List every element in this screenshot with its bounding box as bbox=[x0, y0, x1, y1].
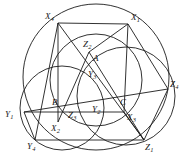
seg-Z1-Z4 bbox=[144, 89, 168, 140]
point-label-Y3: Y3 bbox=[88, 70, 96, 79]
point-label-base: X bbox=[51, 123, 57, 133]
point-label-subscript: 4 bbox=[175, 83, 178, 90]
point-label-Y1: Y1 bbox=[5, 110, 13, 119]
point-label-X2: X2 bbox=[51, 124, 60, 133]
seg-X4-X1 bbox=[58, 23, 128, 24]
point-label-subscript: 2 bbox=[97, 108, 100, 115]
point-label-C: C bbox=[120, 98, 126, 107]
point-label-base: X bbox=[127, 112, 133, 122]
point-label-subscript: 4 bbox=[32, 145, 35, 152]
point-label-subscript: 2 bbox=[57, 127, 60, 134]
point-label-subscript: 3 bbox=[93, 73, 96, 80]
point-label-subscript: 1 bbox=[150, 146, 153, 153]
seg-X1-Z2 bbox=[89, 24, 128, 52]
point-label-subscript: 1 bbox=[10, 113, 13, 120]
point-label-Z2: Z2 bbox=[83, 40, 91, 49]
point-label-base: A bbox=[93, 53, 99, 63]
seg-Y1-Y4 bbox=[24, 112, 35, 140]
point-label-B: B bbox=[52, 98, 58, 107]
point-label-Z4: Z4 bbox=[170, 80, 178, 89]
point-label-Y4: Y4 bbox=[27, 142, 35, 151]
point-label-Z3: Z3 bbox=[68, 111, 76, 120]
seg-X1-Z4 bbox=[128, 24, 168, 89]
point-label-base: X bbox=[45, 11, 51, 21]
segment-layer bbox=[24, 23, 168, 140]
point-label-base: B bbox=[52, 97, 58, 107]
point-label-Y2: Y2 bbox=[92, 105, 100, 114]
point-label-base: X bbox=[131, 12, 137, 22]
point-label-subscript: 2 bbox=[88, 43, 91, 50]
seg-Z2-Z1 bbox=[89, 52, 144, 140]
point-label-A: A bbox=[93, 54, 99, 63]
point-label-subscript: 1 bbox=[137, 16, 140, 23]
geometry-figure: X1X2X3X4Y1Y2Y3Y4Z1Z2Z3Z4ABC bbox=[0, 0, 189, 167]
point-label-base: C bbox=[120, 97, 126, 107]
point-label-subscript: 4 bbox=[51, 15, 54, 22]
point-label-X3: X3 bbox=[127, 113, 136, 122]
point-label-X4: X4 bbox=[45, 12, 54, 21]
point-label-subscript: 3 bbox=[73, 114, 76, 121]
point-label-Z1: Z1 bbox=[145, 143, 153, 152]
point-label-X1: X1 bbox=[131, 13, 140, 22]
point-label-subscript: 3 bbox=[133, 116, 136, 123]
